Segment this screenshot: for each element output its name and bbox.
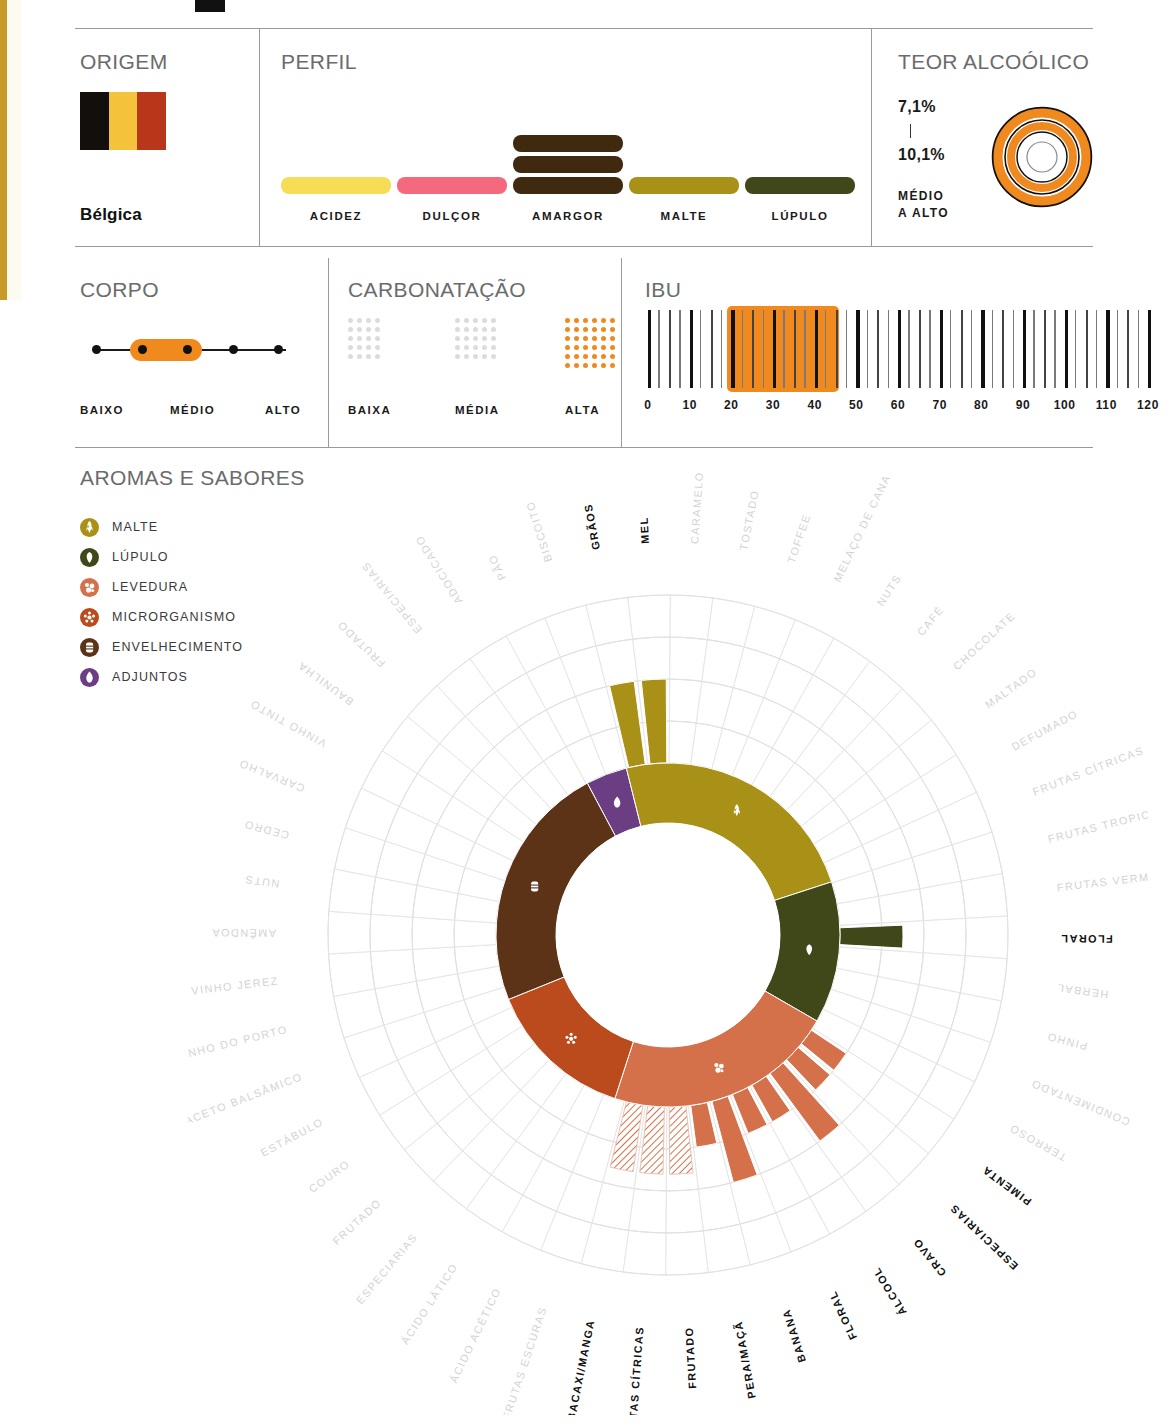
wheel-grid-cell[interactable] (666, 1189, 703, 1233)
wheel-label[interactable]: TOSTADO (737, 489, 761, 552)
ibu-tick-label: 50 (849, 398, 864, 412)
wheel-label[interactable]: FRUTAS TROPICAIS (1047, 802, 1148, 844)
wheel-label[interactable]: FRUTAS CÍTRICAS (1031, 744, 1146, 798)
carbonatacao-dot (348, 318, 353, 323)
wheel-grid-cell[interactable] (370, 949, 416, 989)
wheel-label[interactable]: BANANA (780, 1307, 808, 1364)
carbonatacao-dot (601, 336, 606, 341)
corpo-point[interactable] (274, 345, 283, 354)
ibu-tick (1075, 310, 1076, 388)
wheel-grid-cell[interactable] (670, 595, 713, 640)
wheel-label[interactable]: FLORAL (1060, 933, 1113, 945)
carbonatacao-grid[interactable] (565, 318, 615, 368)
wheel-label[interactable]: BAUNILHA (295, 659, 355, 708)
abv-min: 7,1% (898, 98, 936, 116)
carbonatacao-grid[interactable] (455, 318, 496, 359)
wheel-label[interactable]: TOFFEE (785, 512, 813, 565)
wheel-label[interactable]: CONDIMENTADO (1029, 1077, 1132, 1128)
wheel-label[interactable]: AMÊNDOA (211, 927, 276, 939)
wheel-label[interactable]: CRAVO (910, 1236, 948, 1279)
wheel-label[interactable]: VINHO DO PORTO (188, 1023, 289, 1063)
wheel-label[interactable]: MELAÇO DE CANA (831, 472, 893, 583)
wheel-label[interactable]: ACETO BALSÂMICO (188, 1070, 304, 1127)
wheel-grid-cell[interactable] (628, 595, 671, 639)
wheel-label[interactable]: CAFÉ (915, 603, 947, 637)
wheel-label[interactable]: FLORAL (826, 1289, 859, 1342)
wheel-label[interactable]: CARVALHO (237, 757, 307, 795)
carbonatacao-grid[interactable] (348, 318, 380, 359)
abv-ring-gauge (989, 104, 1095, 210)
wheel-grid-cell[interactable] (666, 1231, 709, 1275)
corpo-point[interactable] (92, 345, 101, 354)
wheel-grid-cell[interactable] (923, 918, 966, 955)
wheel-grid-cell[interactable] (670, 637, 708, 681)
wheel-petal[interactable] (840, 925, 903, 948)
wheel-label[interactable]: FRUTAS VERMELHAS (1056, 865, 1148, 893)
wheel-grid-cell[interactable] (454, 920, 496, 947)
wheel-label[interactable]: PERA/MAÇÃ (732, 1320, 758, 1400)
wheel-label[interactable]: PÃO (486, 552, 508, 582)
wheel-label[interactable]: ADOCICADO (412, 533, 464, 606)
legend-label: MALTE (112, 520, 158, 534)
wheel-label[interactable]: ESPECIARIAS (359, 560, 424, 636)
wheel-grid-cell[interactable] (920, 881, 966, 921)
wheel-label[interactable]: VINHO JEREZ (191, 974, 280, 996)
wheel-label[interactable]: FRUTAS CÍTRICAS (625, 1326, 645, 1415)
wheel-label[interactable]: NUTS (243, 874, 280, 891)
wheel-grid-cell[interactable] (629, 1189, 667, 1233)
wheel-grid-cell[interactable] (412, 917, 455, 949)
wheel-label[interactable]: ESPECIARIAS (947, 1202, 1020, 1273)
wheel-label[interactable]: FRUTADO (683, 1326, 698, 1389)
wheel-grid-cell[interactable] (961, 874, 1007, 919)
wheel-label[interactable]: PIMENTA (979, 1164, 1033, 1208)
wheel-label[interactable]: ÁCIDO ACÉTICO (447, 1285, 503, 1384)
carbonatacao-dot (455, 318, 460, 323)
wheel-label[interactable]: NUTS (874, 572, 903, 608)
ibu-tick (742, 310, 743, 388)
wheel-label[interactable]: CEDRO (242, 818, 290, 841)
corpo-title: CORPO (80, 278, 159, 302)
carbonatacao-dot (610, 318, 615, 323)
corpo-point[interactable] (229, 345, 238, 354)
wheel-label[interactable]: ESTÁBULO (259, 1115, 326, 1159)
carbonatacao-dot (482, 345, 487, 350)
wheel-label[interactable]: FRUTADO (334, 618, 387, 669)
wheel-label[interactable]: HERBAL (1056, 982, 1109, 1001)
carbonatacao-dot (473, 327, 478, 332)
wheel-label[interactable]: PINHO (1045, 1030, 1088, 1052)
wheel-label[interactable]: FRUTADO (330, 1196, 384, 1247)
wheel-label[interactable]: FRUTAS ESCURAS (500, 1305, 549, 1415)
corpo-point[interactable] (183, 345, 192, 354)
wheel-label[interactable]: ESPECIARIAS (354, 1231, 420, 1307)
corpo-scale[interactable] (88, 330, 288, 370)
wheel-grid-cell[interactable] (370, 914, 413, 951)
corpo-point[interactable] (138, 345, 147, 354)
wheel-label[interactable]: VINHO TINTO (248, 698, 329, 750)
wheel-label[interactable]: ÁLCOOL (870, 1265, 909, 1318)
wheel-label[interactable]: CARAMELO (688, 471, 705, 544)
ibu-tick (867, 310, 868, 388)
wheel-label[interactable]: TERROSO (1007, 1122, 1069, 1164)
carbonatacao-dot (601, 363, 606, 368)
aroma-wheel[interactable]: GRÃOSMELCARAMELOTOSTADOTOFFEEMELAÇO DE C… (188, 455, 1148, 1415)
perfil-label: DULÇOR (397, 210, 507, 222)
wheel-grid-cell[interactable] (965, 916, 1008, 959)
wheel-grid-cell[interactable] (623, 1230, 666, 1275)
wheel-grid-cell[interactable] (328, 911, 371, 954)
wheel-label[interactable]: ÁCIDO LÁTICO (399, 1261, 460, 1347)
ibu-tick (971, 310, 972, 388)
wheel-label[interactable]: CHOCOLATE (951, 609, 1018, 672)
wheel-grid-cell[interactable] (329, 952, 375, 997)
wheel-label[interactable]: GRÃOS (582, 502, 602, 550)
ibu-scale[interactable]: 0102030405060708090100110120 (648, 310, 1148, 388)
wheel-label[interactable]: ABACAXI/MANGA (563, 1318, 597, 1415)
carbonatacao-dot (610, 363, 615, 368)
wheel-label[interactable]: MALTADO (983, 665, 1040, 710)
wheel-label[interactable]: COURO (306, 1157, 352, 1195)
ibu-tick (856, 310, 859, 388)
wheel-label[interactable]: DEFUMADO (1009, 707, 1080, 753)
wheel-grid-cell[interactable] (633, 637, 670, 681)
ibu-tick (1013, 310, 1014, 388)
wheel-label[interactable]: BISCOITO (523, 499, 554, 563)
wheel-label[interactable]: MEL (637, 516, 651, 544)
